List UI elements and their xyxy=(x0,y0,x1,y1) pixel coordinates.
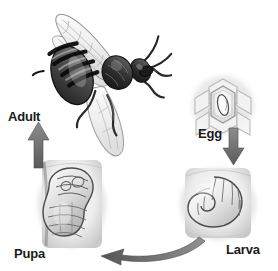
stage-label-pupa: Pupa xyxy=(14,247,45,260)
illustration-layer xyxy=(0,0,278,271)
stage-label-egg: Egg xyxy=(198,127,222,140)
bee-life-cycle-figure: Adult Egg Larva Pupa xyxy=(0,0,278,271)
stage-label-larva: Larva xyxy=(226,243,260,256)
stage-label-adult: Adult xyxy=(8,110,40,123)
c-shaped-larva-in-cell-icon xyxy=(180,168,256,240)
arrow-larva-to-pupa xyxy=(101,237,205,265)
pupa-in-cell-icon xyxy=(38,160,106,248)
